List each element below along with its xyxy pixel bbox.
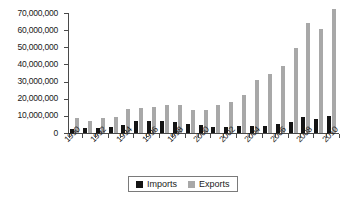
bar-exports — [139, 108, 143, 133]
bar-group — [211, 13, 224, 133]
y-tick-mark — [64, 64, 68, 65]
x-tick-mark — [313, 134, 314, 138]
bar-exports — [332, 9, 336, 133]
bar-exports — [281, 66, 285, 133]
bar-group — [96, 13, 109, 133]
bar-group — [289, 13, 302, 133]
bar-group — [263, 13, 276, 133]
bar-group — [109, 13, 122, 133]
y-tick-mark — [64, 30, 68, 31]
bar-group — [173, 13, 186, 133]
bar-group — [327, 13, 340, 133]
plot-area — [69, 13, 339, 133]
bar-imports — [186, 124, 190, 133]
x-tick-mark — [82, 134, 83, 138]
bar-exports — [88, 121, 92, 133]
y-tick-mark — [64, 99, 68, 100]
bar-exports — [294, 48, 298, 133]
bar-group — [147, 13, 160, 133]
y-tick-label: 50,000,000 — [17, 43, 58, 52]
bar-group — [83, 13, 96, 133]
x-tick-mark — [185, 134, 186, 138]
legend-label-imports: Imports — [147, 179, 177, 189]
y-tick-label: 10,000,000 — [17, 111, 58, 120]
y-tick-mark — [64, 116, 68, 117]
y-tick-mark — [64, 133, 68, 134]
bar-group — [224, 13, 237, 133]
bar-group — [250, 13, 263, 133]
bar-group — [199, 13, 212, 133]
x-tick-mark — [159, 134, 160, 138]
y-tick-label: 60,000,000 — [17, 26, 58, 35]
legend-item-imports: Imports — [136, 179, 177, 189]
x-tick-mark — [120, 134, 121, 138]
bar-imports — [237, 126, 241, 133]
x-tick-mark — [262, 134, 263, 138]
legend-label-exports: Exports — [199, 179, 230, 189]
legend-item-exports: Exports — [188, 179, 230, 189]
x-tick-mark — [146, 134, 147, 138]
bar-group — [186, 13, 199, 133]
y-tick-label: 40,000,000 — [17, 60, 58, 69]
bar-imports — [160, 121, 164, 133]
x-tick-mark — [172, 134, 173, 138]
bar-exports — [268, 74, 272, 133]
bar-group — [70, 13, 83, 133]
bar-exports — [216, 105, 220, 133]
x-tick-mark — [223, 134, 224, 138]
x-tick-mark — [326, 134, 327, 138]
x-tick-mark — [198, 134, 199, 138]
bar-group — [160, 13, 173, 133]
y-tick-label: 30,000,000 — [17, 77, 58, 86]
bar-group — [121, 13, 134, 133]
x-tick-mark — [288, 134, 289, 138]
bar-group — [237, 13, 250, 133]
bar-group — [301, 13, 314, 133]
x-tick-mark — [339, 134, 340, 138]
x-axis: 1990199219941996199820002002200420062008… — [0, 137, 344, 173]
bar-exports — [319, 29, 323, 133]
x-tick-mark — [95, 134, 96, 138]
bar-group — [314, 13, 327, 133]
x-tick-mark — [249, 134, 250, 138]
gray-square-swatch-icon — [188, 181, 195, 188]
bar-imports — [263, 126, 267, 133]
x-tick-mark — [69, 134, 70, 138]
y-tick-label: 20,000,000 — [17, 94, 58, 103]
bar-exports — [114, 117, 118, 133]
y-tick-label: 70,000,000 — [17, 9, 58, 18]
y-tick-mark — [64, 13, 68, 14]
black-square-swatch-icon — [136, 181, 143, 188]
bar-imports — [134, 121, 138, 133]
y-axis: 70,000,00060,000,00050,000,00040,000,000… — [0, 0, 62, 140]
x-tick-mark — [275, 134, 276, 138]
bar-imports — [289, 122, 293, 133]
bar-exports — [191, 110, 195, 133]
bar-exports — [165, 105, 169, 133]
x-tick-mark — [133, 134, 134, 138]
bar-imports — [314, 119, 318, 133]
x-tick-mark — [108, 134, 109, 138]
chart-legend: Imports Exports — [128, 176, 238, 192]
x-tick-mark — [300, 134, 301, 138]
x-tick-mark — [236, 134, 237, 138]
bar-group — [134, 13, 147, 133]
y-tick-mark — [64, 82, 68, 83]
y-tick-mark — [64, 47, 68, 48]
bar-chart: 70,000,00060,000,00050,000,00040,000,000… — [0, 0, 344, 202]
bar-exports — [242, 95, 246, 133]
x-tick-mark — [210, 134, 211, 138]
bar-exports — [306, 23, 310, 133]
bar-group — [276, 13, 289, 133]
